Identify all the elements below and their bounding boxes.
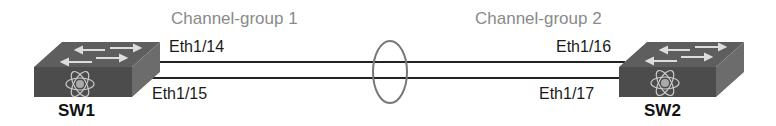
channel-group-2-label: Channel-group 2 — [475, 9, 602, 29]
port-channel-bundle-ellipse — [373, 41, 407, 103]
port-label-eth1-14: Eth1/14 — [169, 38, 224, 56]
port-label-eth1-17: Eth1/17 — [539, 85, 594, 103]
channel-group-1-label: Channel-group 1 — [171, 9, 298, 29]
switch-sw2-icon — [619, 42, 744, 98]
switch-sw2-label: SW2 — [644, 101, 681, 121]
port-label-eth1-15: Eth1/15 — [152, 85, 207, 103]
port-label-eth1-16: Eth1/16 — [556, 38, 611, 56]
switch-sw1-label: SW1 — [58, 101, 95, 121]
switch-sw1-icon — [34, 42, 160, 99]
